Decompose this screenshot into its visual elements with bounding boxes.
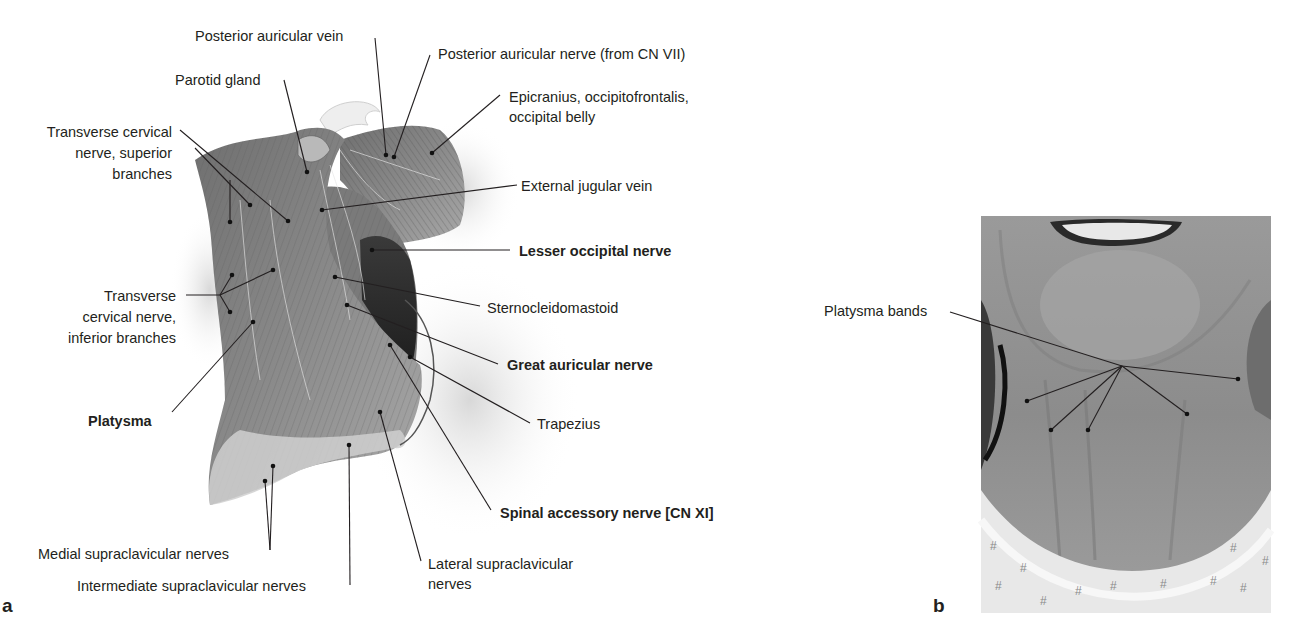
svg-text:#: # (1240, 581, 1247, 595)
label-great-auricular-nerve: Great auricular nerve (507, 355, 653, 375)
svg-text:#: # (1075, 584, 1082, 598)
label-sternocleidomastoid: Sternocleidomastoid (487, 298, 618, 318)
label-tcn-inferior-line1: Transverse (104, 286, 176, 306)
label-parotid-gland: Parotid gland (175, 70, 260, 90)
label-tcn-superior-line3: branches (112, 164, 172, 184)
label-epicranius-line2: occipital belly (509, 107, 595, 127)
svg-text:#: # (1040, 594, 1047, 608)
svg-text:#: # (1110, 579, 1117, 593)
neck-photo: ### ### ### ## (981, 216, 1271, 613)
panel-letter-a: a (2, 595, 13, 617)
label-tcn-inferior-line2: cervical nerve, (83, 307, 176, 327)
svg-text:#: # (995, 579, 1002, 593)
label-trapezius: Trapezius (537, 414, 600, 434)
label-lateral-supraclavicular-line1: Lateral supraclavicular (428, 554, 573, 574)
label-external-jugular-vein: External jugular vein (521, 176, 652, 196)
label-epicranius-line1: Epicranius, occipitofrontalis, (509, 87, 689, 107)
anatomy-figure: ### ### ### ## Posterior auricular vein … (0, 0, 1296, 637)
svg-text:#: # (1020, 561, 1027, 575)
panel-letter-b: b (933, 595, 945, 617)
label-tcn-superior-line1: Transverse cervical (47, 122, 172, 142)
label-spinal-accessory-nerve: Spinal accessory nerve [CN XI] (500, 503, 714, 523)
label-posterior-auricular-nerve: Posterior auricular nerve (from CN VII) (438, 44, 685, 64)
label-medial-supraclavicular: Medial supraclavicular nerves (38, 544, 229, 564)
svg-text:#: # (1262, 554, 1269, 568)
svg-text:#: # (1230, 541, 1237, 555)
label-tcn-inferior-line3: inferior branches (68, 328, 176, 348)
label-lateral-supraclavicular-line2: nerves (428, 574, 472, 594)
label-platysma: Platysma (88, 411, 152, 431)
neck-illustration (170, 102, 580, 540)
label-lesser-occipital-nerve: Lesser occipital nerve (519, 241, 671, 261)
label-posterior-auricular-vein: Posterior auricular vein (195, 26, 343, 46)
label-tcn-superior-line2: nerve, superior (75, 143, 172, 163)
svg-text:#: # (1210, 574, 1217, 588)
label-platysma-bands: Platysma bands (824, 301, 927, 321)
svg-text:#: # (990, 539, 997, 553)
label-intermediate-supraclavicular: Intermediate supraclavicular nerves (77, 576, 306, 596)
svg-text:#: # (1160, 577, 1167, 591)
